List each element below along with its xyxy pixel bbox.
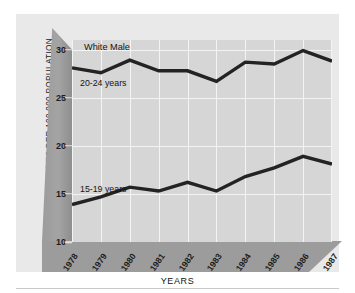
chart-panel: SUICIDES PER 100,000 POPULATION 30252015… — [16, 14, 339, 272]
x-axis-title: YEARS — [16, 276, 339, 286]
y-tick-label: 25 — [40, 93, 66, 103]
y-tick-mark — [65, 49, 72, 51]
chart-title: White Male — [84, 42, 130, 52]
series-line-20-24 — [72, 51, 332, 82]
series-label-15-19: 15-19 years — [80, 184, 126, 194]
y-tick-mark — [65, 145, 72, 147]
y-tick-label: 30 — [40, 45, 66, 55]
bottom-divider — [16, 288, 339, 289]
series-lines — [72, 40, 332, 242]
y-tick-mark — [65, 193, 72, 195]
y-tick-label: 10 — [40, 237, 66, 247]
y-tick-mark — [65, 241, 72, 243]
plot-area — [72, 40, 332, 242]
series-label-20-24: 20-24 years — [80, 78, 126, 88]
series-line-15-19 — [72, 156, 332, 204]
y-tick-mark — [65, 97, 72, 99]
y-tick-label: 15 — [40, 189, 66, 199]
y-tick-label: 20 — [40, 141, 66, 151]
